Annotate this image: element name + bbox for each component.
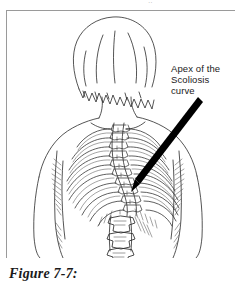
clipped-text-remnant: ··	[148, 0, 170, 5]
scoliosis-illustration	[7, 11, 235, 258]
callout-arrow-shape	[131, 97, 203, 192]
callout-line-2: Scoliosis	[171, 74, 233, 85]
callout-line-3: curve	[171, 85, 233, 96]
callout-label: Apex of the Scoliosis curve	[171, 63, 233, 96]
callout-line-1: Apex of the	[171, 63, 233, 74]
figure-caption: Figure 7-7:	[9, 265, 78, 282]
figure-panel: ··	[0, 0, 235, 287]
